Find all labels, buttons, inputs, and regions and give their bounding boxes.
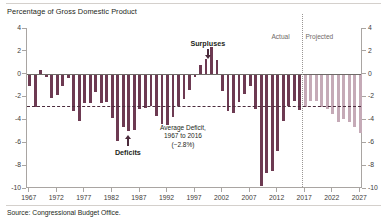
chart-figure: Percentage of Gross Domestic Product 420…	[0, 0, 387, 224]
bar-2002	[221, 74, 224, 91]
y-label-left-4: 4	[2, 24, 21, 31]
y-tick-right--6	[362, 142, 366, 143]
x-tick-2017	[304, 188, 305, 192]
bar-2013	[282, 74, 285, 121]
y-tick-left-2	[22, 50, 26, 51]
bar-2009	[260, 74, 263, 186]
y-tick-right--4	[362, 119, 366, 120]
y-tick-right-2	[362, 50, 366, 51]
bar-2014	[287, 74, 290, 106]
x-label-1972: 1972	[49, 194, 64, 201]
average-deficit-line3: (−2.8%)	[160, 141, 206, 149]
x-label-1987: 1987	[131, 194, 146, 201]
y-tick-right-0	[362, 73, 366, 74]
deficits-label: Deficits	[115, 148, 141, 157]
x-label-1992: 1992	[159, 194, 174, 201]
y-label-left--4: -4	[2, 115, 21, 122]
bar-1998	[199, 65, 202, 74]
deficits-arrow-icon	[127, 139, 129, 146]
plot-area	[26, 28, 362, 188]
bar-2007	[249, 74, 252, 87]
y-tick-left--4	[22, 119, 26, 120]
bar-2027	[359, 74, 362, 133]
bar-1999	[205, 59, 208, 74]
x-tick-1977	[83, 188, 84, 192]
x-label-2027: 2027	[352, 194, 367, 201]
bar-1978	[89, 74, 92, 104]
bar-2025	[348, 74, 351, 122]
bar-1983	[116, 74, 119, 141]
y-label-right-0: 0	[368, 70, 387, 77]
bar-1989	[150, 74, 153, 106]
bar-1987	[138, 74, 141, 109]
y-label-right--2: -2	[368, 92, 387, 99]
bar-2017	[304, 74, 307, 107]
x-label-2012: 2012	[269, 194, 284, 201]
average-deficit-line	[27, 106, 361, 107]
y-tick-left-4	[22, 28, 26, 29]
bar-1982	[111, 74, 114, 119]
x-tick-1997	[194, 188, 195, 192]
bar-series-group	[27, 28, 361, 187]
bar-2015	[293, 74, 296, 101]
y-label-right--8: -8	[368, 161, 387, 168]
y-label-right-4: 4	[368, 24, 387, 31]
surpluses-arrow-icon	[207, 49, 209, 55]
x-label-2022: 2022	[324, 194, 339, 201]
y-tick-right--2	[362, 96, 366, 97]
y-tick-right--8	[362, 165, 366, 166]
bar-1981	[105, 74, 108, 103]
x-label-2002: 2002	[214, 194, 229, 201]
y-label-right--4: -4	[368, 115, 387, 122]
y-label-right--10: -10	[368, 184, 387, 191]
x-label-2017: 2017	[297, 194, 312, 201]
top-rule	[6, 3, 381, 4]
bar-1993	[172, 74, 175, 117]
x-label-1967: 1967	[21, 194, 36, 201]
actual-label: Actual	[271, 33, 289, 40]
y-tick-right-4	[362, 28, 366, 29]
bar-2011	[271, 74, 274, 171]
chart-title: Percentage of Gross Domestic Product	[7, 7, 137, 16]
bar-2018	[309, 74, 312, 101]
x-tick-1967	[28, 188, 29, 192]
y-label-left-2: 2	[2, 47, 21, 54]
actual-projected-divider	[302, 14, 303, 187]
y-tick-right--10	[362, 188, 366, 189]
x-tick-1992	[166, 188, 167, 192]
bar-2005	[238, 74, 241, 103]
average-deficit-annotation: Average Deficit, 1967 to 2016 (−2.8%)	[160, 124, 206, 149]
bar-1984	[122, 74, 125, 128]
y-label-left--2: -2	[2, 92, 21, 99]
y-label-left--6: -6	[2, 138, 21, 145]
bar-2012	[276, 74, 279, 152]
x-tick-2002	[221, 188, 222, 192]
bar-1994	[177, 74, 180, 106]
y-tick-left--8	[22, 165, 26, 166]
bar-1977	[83, 74, 86, 104]
bar-1968	[34, 74, 37, 107]
bar-1967	[28, 74, 31, 87]
bar-2001	[216, 60, 219, 74]
bar-1991	[161, 74, 164, 124]
bar-2023	[337, 74, 340, 122]
surpluses-label: Surpluses	[190, 39, 225, 48]
y-label-right-2: 2	[368, 47, 387, 54]
bar-1973	[61, 74, 64, 87]
x-tick-2007	[249, 188, 250, 192]
y-tick-left-0	[22, 73, 26, 74]
bar-1979	[94, 74, 97, 92]
y-label-left--8: -8	[2, 161, 21, 168]
bar-2000	[210, 47, 213, 73]
projected-label: Projected	[305, 33, 333, 40]
bar-2020	[320, 74, 323, 107]
average-deficit-line2: 1967 to 2016	[160, 132, 206, 140]
bar-1986	[133, 74, 136, 130]
bar-1971	[50, 74, 53, 98]
bar-2026	[353, 74, 356, 128]
x-label-2007: 2007	[242, 194, 257, 201]
x-label-1997: 1997	[186, 194, 201, 201]
x-tick-1987	[139, 188, 140, 192]
zero-baseline	[27, 74, 361, 75]
bar-2008	[254, 74, 257, 109]
